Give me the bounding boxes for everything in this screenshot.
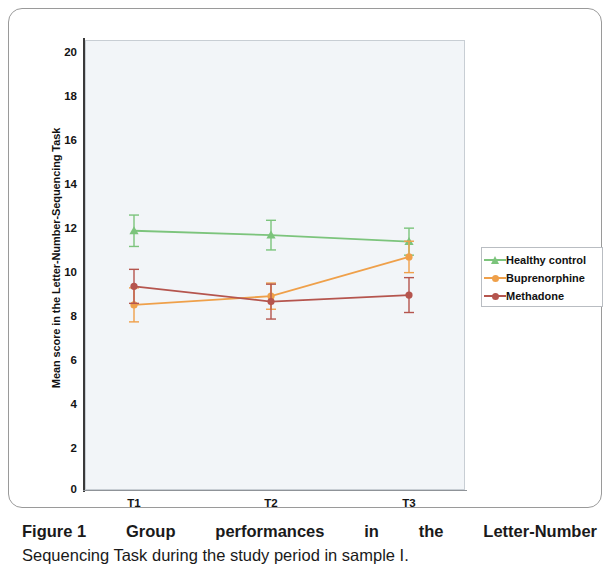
legend-item-methadone: Methadone	[482, 287, 602, 305]
legend-item-healthy-control: Healthy control	[482, 251, 602, 269]
caption-word-0: Group	[126, 519, 176, 543]
figure-caption: Figure 1 Group performances in the Lette…	[22, 519, 597, 567]
caption-word-4: Letter-Number	[483, 519, 597, 543]
legend-item-buprenorphine: Buprenorphine	[482, 269, 602, 287]
legend-swatch-buprenorphine	[484, 271, 506, 285]
chart-legend: Healthy control Buprenorphine Methadone	[481, 247, 603, 307]
y-tick-16: 16	[49, 135, 77, 145]
y-axis-ticks: 20 18 16 14 12 10 8 6 4 2 0	[45, 0, 77, 585]
circle-marker-icon	[492, 275, 499, 282]
x-tick-t2: T2	[241, 497, 301, 509]
y-tick-8: 8	[49, 311, 77, 321]
y-tick-6: 6	[49, 355, 77, 365]
y-tick-2: 2	[49, 443, 77, 453]
legend-swatch-methadone	[484, 289, 506, 303]
y-axis-title-container: Mean score in the Letter-Number-Sequenci…	[24, 0, 44, 585]
y-tick-12: 12	[49, 223, 77, 233]
y-tick-20: 20	[49, 47, 77, 57]
caption-word-1: performances	[215, 519, 324, 543]
x-tick-t3: T3	[379, 497, 439, 509]
caption-line-2: Sequencing Task during the study period …	[22, 543, 597, 567]
caption-line-1: Figure 1 Group performances in the Lette…	[22, 519, 597, 543]
figure-container: Mean score in the Letter-Number-Sequenci…	[0, 0, 611, 585]
y-axis-line	[83, 38, 85, 492]
y-tick-10: 10	[49, 267, 77, 277]
legend-label-healthy-control: Healthy control	[506, 254, 586, 266]
caption-figure-label: Figure 1	[22, 519, 86, 543]
legend-swatch-healthy-control	[484, 253, 506, 267]
x-axis-line	[83, 490, 467, 491]
legend-label-buprenorphine: Buprenorphine	[506, 272, 585, 284]
caption-word-2: in	[364, 519, 379, 543]
caption-word-3: the	[419, 519, 444, 543]
circle-marker-icon	[492, 293, 499, 300]
y-tick-0: 0	[49, 484, 77, 494]
plot-area	[85, 40, 465, 490]
y-tick-14: 14	[49, 179, 77, 189]
triangle-marker-icon	[491, 256, 499, 264]
x-tick-t1: T1	[104, 497, 164, 509]
y-tick-18: 18	[49, 91, 77, 101]
legend-label-methadone: Methadone	[506, 290, 564, 302]
y-tick-4: 4	[49, 399, 77, 409]
